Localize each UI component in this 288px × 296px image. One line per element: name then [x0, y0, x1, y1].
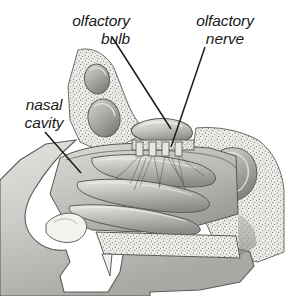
label-olfactory-nerve: olfactory nerve: [168, 12, 282, 48]
label-nasal-cavity: nasal cavity: [2, 96, 86, 132]
label-olfactory-nerve-line1: olfactory: [168, 12, 282, 30]
label-nasal-cavity-line1: nasal: [2, 96, 86, 114]
olfactory-anatomy-figure: The Sense of Smell: [0, 0, 288, 296]
hard-palate: [96, 232, 240, 258]
label-olfactory-bulb-line2: bulb: [22, 30, 130, 48]
label-olfactory-bulb-line1: olfactory: [22, 12, 130, 30]
label-olfactory-bulb: olfactory bulb: [22, 12, 130, 48]
label-olfactory-nerve-line2: nerve: [168, 30, 282, 48]
label-nasal-cavity-line2: cavity: [2, 114, 86, 132]
